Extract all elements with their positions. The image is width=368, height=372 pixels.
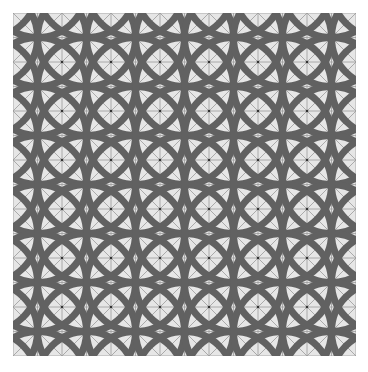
dot [208,306,211,309]
dot [306,110,309,113]
dot [110,257,113,260]
dot [306,208,309,211]
dot [208,257,211,260]
dot [208,208,211,211]
dot [159,306,162,309]
dot [257,61,260,64]
dot [306,257,309,260]
dot [208,159,211,162]
dot [110,110,113,113]
dot [257,306,260,309]
dot [61,110,64,113]
dot [61,159,64,162]
dot [257,257,260,260]
circle-lattice-pattern [13,13,356,356]
dot [61,208,64,211]
dot [306,306,309,309]
dot [159,159,162,162]
dot [208,61,211,64]
dot [61,306,64,309]
dot [110,306,113,309]
dot [208,110,211,113]
dot [61,257,64,260]
dot [306,61,309,64]
dot [257,208,260,211]
dot [110,159,113,162]
dot [110,61,113,64]
dot [61,61,64,64]
dot [159,257,162,260]
dot [306,159,309,162]
dot [257,110,260,113]
dot [159,208,162,211]
dot [257,159,260,162]
dot [159,110,162,113]
dot [110,208,113,211]
dot [159,61,162,64]
